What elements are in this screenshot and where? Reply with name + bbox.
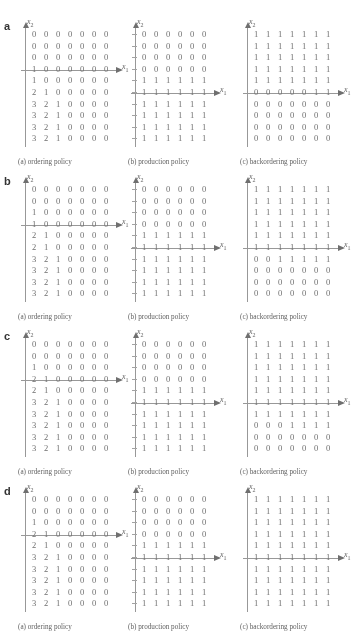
policy-cell: 0 <box>310 443 322 455</box>
policy-cell: 1 <box>274 75 286 87</box>
policy-cell: 0 <box>40 494 52 506</box>
policy-cell: 1 <box>250 517 262 529</box>
policy-cell: 0 <box>76 87 88 99</box>
policy-cell: 0 <box>100 230 112 242</box>
policy-cell: 1 <box>298 64 310 76</box>
policy-cell: 1 <box>174 242 186 254</box>
policy-cell: 0 <box>198 196 210 208</box>
policy-cell: 1 <box>286 420 298 432</box>
policy-cell: 1 <box>250 230 262 242</box>
policy-cell: 1 <box>262 575 274 587</box>
policy-cell: 1 <box>322 575 334 587</box>
policy-cell: 0 <box>274 277 286 289</box>
policy-cell: 1 <box>250 385 262 397</box>
policy-cell: 1 <box>52 432 64 444</box>
policy-cell: 3 <box>28 420 40 432</box>
policy-grid: 0000000000000000000000001111111111111111… <box>138 184 210 300</box>
policy-cell: 1 <box>262 598 274 610</box>
policy-cell: 1 <box>322 587 334 599</box>
policy-cell: 0 <box>64 219 76 231</box>
policy-cell: 0 <box>250 122 262 134</box>
policy-cell: 0 <box>88 598 100 610</box>
policy-cell: 0 <box>250 254 262 266</box>
policy-cell: 1 <box>162 575 174 587</box>
figure-block-b: bx2x100000000000000100000010000002100000… <box>0 173 354 328</box>
policy-grid: 0000000000000010000002100000210000032100… <box>28 494 112 610</box>
policy-cell: 0 <box>198 529 210 541</box>
policy-cell: 1 <box>150 254 162 266</box>
policy-cell: 0 <box>286 432 298 444</box>
policy-cell: 1 <box>52 564 64 576</box>
policy-cell: 1 <box>198 409 210 421</box>
policy-cell: 1 <box>52 265 64 277</box>
policy-cell: 1 <box>274 41 286 53</box>
policy-cell: 1 <box>274 540 286 552</box>
policy-cell: 0 <box>322 110 334 122</box>
policy-cell: 1 <box>186 277 198 289</box>
policy-cell: 1 <box>162 230 174 242</box>
policy-cell: 1 <box>274 385 286 397</box>
policy-cell: 0 <box>88 133 100 145</box>
policy-cell: 1 <box>138 122 150 134</box>
policy-cell: 0 <box>28 494 40 506</box>
policy-cell: 0 <box>64 288 76 300</box>
policy-cell: 1 <box>262 219 274 231</box>
x-axis-label: x1 <box>344 240 351 251</box>
policy-cell: 0 <box>150 351 162 363</box>
policy-cell: 0 <box>64 494 76 506</box>
policy-cell: 0 <box>150 494 162 506</box>
policy-cell: 0 <box>322 99 334 111</box>
policy-cell: 1 <box>250 374 262 386</box>
policy-cell: 1 <box>174 277 186 289</box>
policy-cell: 0 <box>76 443 88 455</box>
policy-cell: 0 <box>88 52 100 64</box>
policy-cell: 1 <box>274 397 286 409</box>
policy-cell: 1 <box>138 575 150 587</box>
policy-cell: 1 <box>310 207 322 219</box>
policy-cell: 0 <box>250 87 262 99</box>
policy-cell: 0 <box>40 362 52 374</box>
policy-cell: 2 <box>40 575 52 587</box>
policy-cell: 0 <box>76 75 88 87</box>
policy-cell: 1 <box>186 564 198 576</box>
policy-cell: 1 <box>52 133 64 145</box>
policy-cell: 1 <box>298 598 310 610</box>
policy-cell: 1 <box>262 339 274 351</box>
policy-cell: 0 <box>150 339 162 351</box>
policy-cell: 0 <box>162 362 174 374</box>
policy-cell: 1 <box>186 587 198 599</box>
policy-cell: 0 <box>138 207 150 219</box>
policy-cell: 1 <box>322 529 334 541</box>
policy-cell: 0 <box>88 587 100 599</box>
policy-cell: 0 <box>262 133 274 145</box>
policy-cell: 1 <box>250 506 262 518</box>
policy-cell: 1 <box>322 207 334 219</box>
policy-cell: 0 <box>162 52 174 64</box>
policy-cell: 0 <box>64 432 76 444</box>
policy-cell: 0 <box>310 110 322 122</box>
policy-cell: 1 <box>298 242 310 254</box>
policy-cell: 0 <box>100 52 112 64</box>
policy-cell: 0 <box>162 207 174 219</box>
policy-cell: 1 <box>274 517 286 529</box>
policy-cell: 1 <box>174 598 186 610</box>
policy-cell: 1 <box>286 242 298 254</box>
policy-cell: 0 <box>186 207 198 219</box>
policy-cell: 0 <box>100 133 112 145</box>
y-axis-line <box>25 27 26 147</box>
policy-cell: 0 <box>88 219 100 231</box>
policy-cell: 1 <box>186 385 198 397</box>
policy-cell: 0 <box>76 254 88 266</box>
policy-cell: 0 <box>174 494 186 506</box>
policy-cell: 0 <box>88 374 100 386</box>
policy-cell: 1 <box>274 207 286 219</box>
policy-cell: 1 <box>286 587 298 599</box>
policy-cell: 1 <box>162 587 174 599</box>
policy-cell: 0 <box>52 540 64 552</box>
policy-cell: 0 <box>198 339 210 351</box>
policy-cell: 0 <box>274 122 286 134</box>
policy-cell: 0 <box>64 230 76 242</box>
policy-cell: 1 <box>174 254 186 266</box>
policy-cell: 0 <box>286 443 298 455</box>
policy-cell: 0 <box>322 133 334 145</box>
